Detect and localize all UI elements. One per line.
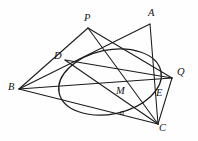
point-label-E: E bbox=[156, 88, 162, 99]
segment-Q-C bbox=[158, 78, 172, 124]
point-label-M: M bbox=[116, 86, 125, 97]
point-label-P: P bbox=[84, 13, 90, 24]
geometry-figure: P A D B Q M E C a bbox=[0, 0, 198, 141]
segment-A-B bbox=[19, 24, 150, 89]
point-label-D: D bbox=[54, 51, 62, 62]
angle-label-alpha: a bbox=[120, 108, 124, 117]
geometry-canvas bbox=[0, 0, 198, 141]
point-label-A: A bbox=[148, 8, 154, 19]
point-label-B: B bbox=[8, 82, 14, 93]
segment-B-Q bbox=[19, 78, 172, 89]
point-label-C: C bbox=[159, 123, 166, 134]
point-label-Q: Q bbox=[177, 67, 185, 78]
